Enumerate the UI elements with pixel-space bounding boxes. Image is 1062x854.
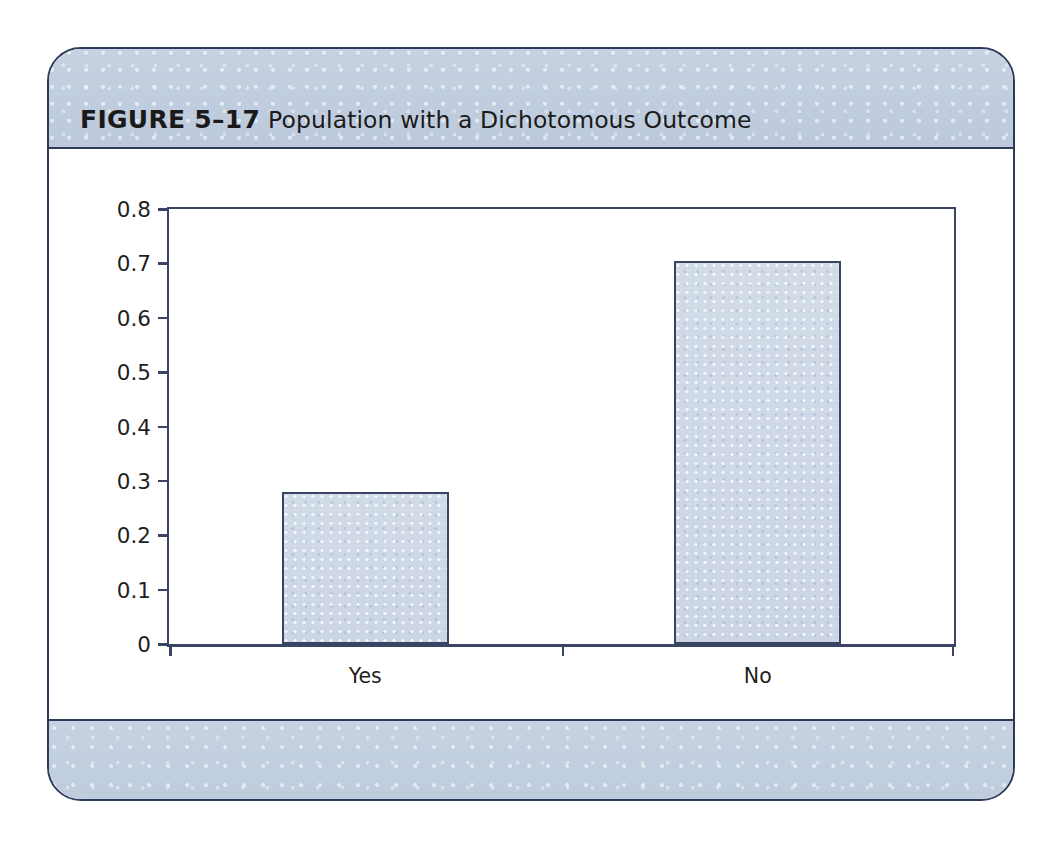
figure-caption: FIGURE 5–17 Population with a Dichotomou… [80, 105, 751, 134]
y-axis-tick-label: 0.3 [117, 468, 151, 493]
x-axis-tick [952, 644, 955, 656]
y-axis-tick-label: 0.4 [117, 414, 151, 439]
y-axis-tick-label: 0.5 [117, 360, 151, 385]
bar-yes [282, 492, 449, 644]
plot-box: 00.10.20.30.40.50.60.70.8YesNo [167, 207, 956, 647]
y-axis-tick-label: 0.8 [117, 197, 151, 222]
x-axis-tick [169, 644, 172, 656]
y-axis-tick [158, 426, 169, 429]
y-axis-tick [158, 262, 169, 265]
figure-frame: FIGURE 5–17 Population with a Dichotomou… [47, 47, 1015, 801]
figure-footer-band [49, 719, 1013, 799]
y-axis-tick [158, 534, 169, 537]
y-axis-tick [158, 589, 169, 592]
y-axis-tick [158, 208, 169, 211]
x-axis-label-no: No [744, 664, 772, 688]
y-axis-tick-label: 0.1 [117, 577, 151, 602]
y-axis-tick-label: 0.2 [117, 523, 151, 548]
figure-number-label: FIGURE 5–17 [80, 105, 260, 134]
x-axis-label-yes: Yes [349, 664, 382, 688]
bar-no [674, 261, 841, 644]
chart-area: 00.10.20.30.40.50.60.70.8YesNo [49, 149, 1013, 721]
y-axis-tick [158, 317, 169, 320]
y-axis-tick [158, 371, 169, 374]
y-axis-tick [158, 480, 169, 483]
y-axis-tick-label: 0.7 [117, 251, 151, 276]
x-axis-tick [562, 644, 565, 656]
page-title: Population with a Dichotomous Outcome [268, 106, 751, 134]
y-axis-tick [158, 643, 169, 646]
y-axis-tick-label: 0.6 [117, 305, 151, 330]
figure-header-band: FIGURE 5–17 Population with a Dichotomou… [49, 49, 1013, 149]
y-axis-tick-label: 0 [137, 632, 151, 657]
